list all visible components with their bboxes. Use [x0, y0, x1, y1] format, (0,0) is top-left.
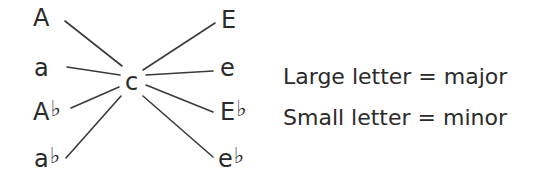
- edge-c-aflat: [66, 96, 121, 158]
- flat-icon: ♭: [236, 96, 246, 121]
- legend-minor: Small letter = minor: [283, 107, 507, 129]
- edge-c-eflat: [143, 96, 213, 157]
- node-eflat-minor: e♭: [218, 147, 244, 171]
- node-a-minor: a: [34, 56, 49, 80]
- node-A-major: A: [33, 6, 49, 30]
- node-c: c: [125, 70, 138, 94]
- node-aflat-minor: a♭: [34, 147, 60, 171]
- legend-major: Large letter = major: [283, 66, 507, 88]
- edge-c-E: [143, 23, 215, 70]
- node-Aflat-major: A♭: [33, 100, 61, 124]
- node-E-major: E: [221, 8, 236, 32]
- flat-icon: ♭: [50, 143, 60, 168]
- node-Eflat-major: E♭: [220, 100, 247, 124]
- edge-c-Aflat: [71, 87, 119, 108]
- flat-icon: ♭: [50, 96, 60, 121]
- flat-icon: ♭: [234, 143, 244, 168]
- edge-c-e: [146, 71, 213, 75]
- edges: [0, 0, 541, 184]
- node-e-minor: e: [220, 56, 235, 80]
- edge-c-A: [65, 21, 122, 66]
- edge-c-a: [67, 67, 120, 75]
